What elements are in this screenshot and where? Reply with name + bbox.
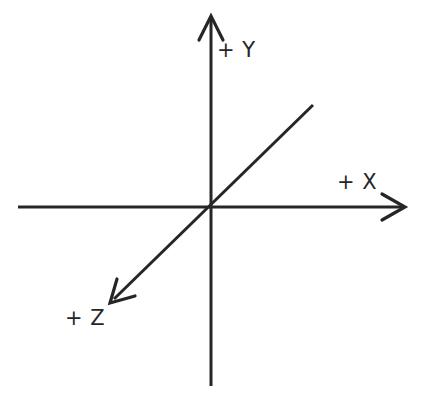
axes-drawing bbox=[0, 0, 425, 411]
z-axis-line bbox=[114, 105, 313, 299]
x-axis-label: + X bbox=[337, 172, 377, 193]
z-axis-label: + Z bbox=[65, 308, 105, 329]
y-axis-label: + Y bbox=[217, 40, 256, 61]
coordinate-axes-diagram: + Y + X + Z bbox=[0, 0, 425, 411]
